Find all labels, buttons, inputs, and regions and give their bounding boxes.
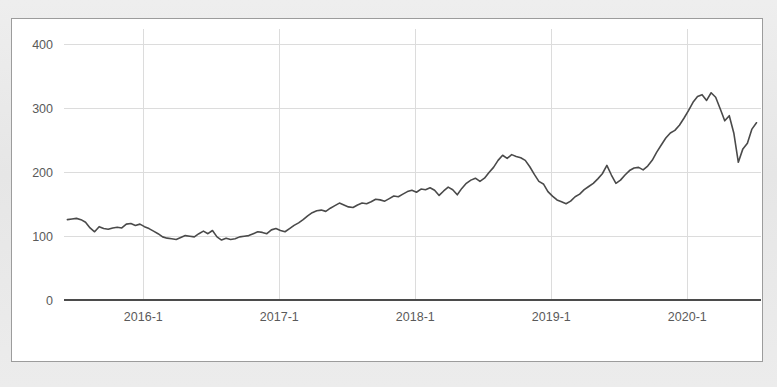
x-tick-label: 2017-1 xyxy=(260,310,299,324)
series-price-line xyxy=(67,93,756,240)
gridlines xyxy=(64,29,761,300)
x-tick-label: 2016-1 xyxy=(124,310,163,324)
y-tick-label: 200 xyxy=(32,166,53,180)
x-tick-label: 2019-1 xyxy=(532,310,571,324)
y-tick-label: 0 xyxy=(46,294,53,308)
line-chart[interactable]: 0100200300400 2016-12017-12018-12019-120… xyxy=(12,19,762,361)
page-root: 0100200300400 2016-12017-12018-12019-120… xyxy=(0,0,777,387)
y-tick-label: 100 xyxy=(32,230,53,244)
x-tick-label: 2020-1 xyxy=(668,310,707,324)
x-tick-label: 2018-1 xyxy=(396,310,435,324)
y-tick-label: 400 xyxy=(32,38,53,52)
y-tick-labels: 0100200300400 xyxy=(32,38,53,307)
x-tick-labels: 2016-12017-12018-12019-12020-1 xyxy=(124,310,707,324)
chart-panel: 0100200300400 2016-12017-12018-12019-120… xyxy=(11,18,763,362)
y-tick-label: 300 xyxy=(32,102,53,116)
